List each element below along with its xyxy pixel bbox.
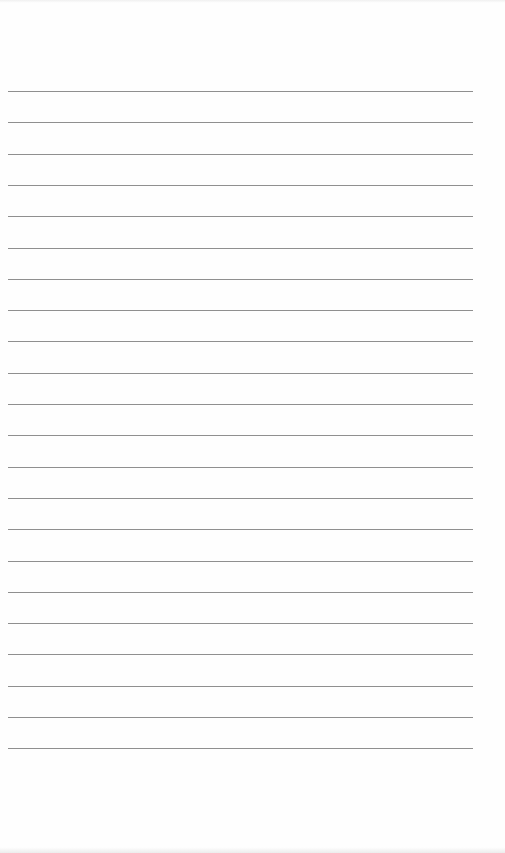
ruled-line <box>8 435 473 436</box>
ruled-line <box>8 122 473 123</box>
ruled-line <box>8 623 473 624</box>
ruled-line <box>8 717 473 718</box>
ruled-line <box>8 404 473 405</box>
page-bottom-edge <box>0 847 505 853</box>
ruled-line <box>8 248 473 249</box>
ruled-line <box>8 592 473 593</box>
ruled-line <box>8 216 473 217</box>
ruled-line <box>8 686 473 687</box>
ruled-line <box>8 310 473 311</box>
lined-page <box>0 0 505 853</box>
page-top-edge <box>0 0 505 3</box>
ruled-line <box>8 748 473 749</box>
ruled-line <box>8 373 473 374</box>
ruled-line <box>8 467 473 468</box>
ruled-line <box>8 341 473 342</box>
ruled-line <box>8 154 473 155</box>
ruled-line <box>8 654 473 655</box>
ruled-line <box>8 91 473 92</box>
ruled-line <box>8 498 473 499</box>
ruled-line <box>8 279 473 280</box>
ruled-line <box>8 185 473 186</box>
ruled-line <box>8 561 473 562</box>
ruled-line <box>8 529 473 530</box>
